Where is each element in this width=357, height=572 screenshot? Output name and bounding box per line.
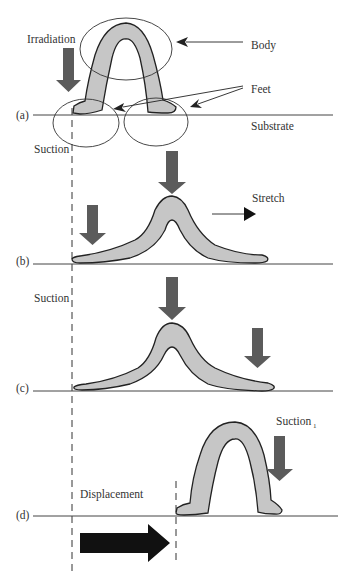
feet-pointer-line-left (123, 86, 243, 107)
irradiation-label: Irradiation (27, 33, 76, 45)
suction-label-d-subscript: 1 (313, 422, 317, 430)
panel-label-d: (d) (16, 509, 30, 522)
displacement-label: Displacement (80, 488, 144, 501)
stretch-label: Stretch (252, 192, 285, 204)
center-press-arrow-c-icon (158, 277, 186, 320)
panel-label-a: (a) (16, 109, 29, 122)
panel-c: Suction (c) (16, 277, 333, 395)
body-label: Body (251, 39, 276, 52)
inchworm-body-arch-d (176, 422, 282, 515)
suction-label-c: Suction (34, 292, 69, 304)
panel-label-b: (b) (16, 255, 30, 268)
panel-a: (a) Irradiation Body Feet Substrate Suct… (16, 18, 333, 155)
substrate-label: Substrate (251, 120, 294, 132)
panel-b: (b) Stretch (16, 151, 333, 268)
irradiation-arrow-icon (56, 48, 81, 92)
suction-press-arrow-d-icon (266, 436, 293, 481)
right-press-arrow-c-icon (244, 328, 271, 368)
stretch-arrowhead-icon (244, 207, 256, 221)
feet-label: Feet (251, 83, 272, 95)
panel-label-c: (c) (16, 382, 29, 395)
left-press-arrow-b-icon (79, 205, 106, 245)
center-press-arrow-b-icon (158, 151, 186, 194)
suction-label-d: Suction (276, 415, 311, 427)
displacement-arrow-icon (80, 524, 170, 562)
panel-d: (d) Suction 1 Displacement (16, 415, 338, 562)
inchworm-body-stretched-b (72, 196, 268, 263)
inchworm-body-stretched-c (74, 323, 274, 391)
feet-pointer-line-right (198, 88, 243, 104)
suction-label-a: Suction (34, 143, 69, 155)
inchworm-locomotion-diagram: (a) Irradiation Body Feet Substrate Suct… (0, 0, 357, 572)
